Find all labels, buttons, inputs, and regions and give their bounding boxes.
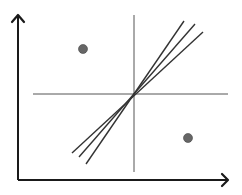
axes bbox=[12, 15, 228, 186]
data-point-1 bbox=[79, 45, 88, 54]
regression-line-2 bbox=[79, 24, 195, 157]
data-point-2 bbox=[184, 134, 193, 143]
regression-line-3 bbox=[72, 32, 203, 153]
diagram-canvas bbox=[0, 0, 242, 195]
regression-lines bbox=[72, 21, 203, 164]
quadrant-lines bbox=[33, 15, 228, 172]
